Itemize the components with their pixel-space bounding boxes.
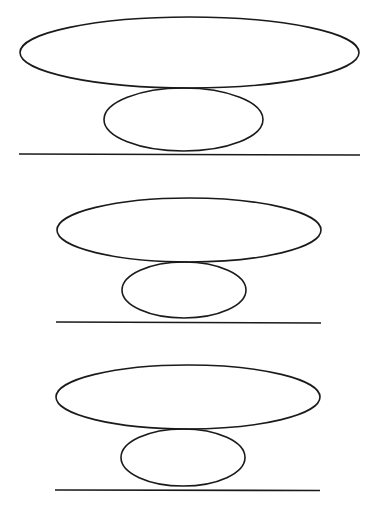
diagram-canvas xyxy=(0,0,379,518)
figure-2 xyxy=(56,198,321,323)
ground-line xyxy=(55,490,320,491)
large-ellipse xyxy=(56,365,320,429)
small-ellipse xyxy=(104,88,263,151)
ground-line xyxy=(56,322,321,323)
small-ellipse xyxy=(121,429,245,486)
small-ellipse xyxy=(122,262,246,318)
large-ellipse xyxy=(20,17,359,88)
large-ellipse xyxy=(57,198,321,262)
ground-line xyxy=(19,154,360,155)
figure-3 xyxy=(55,365,320,491)
figure-1 xyxy=(19,17,360,155)
